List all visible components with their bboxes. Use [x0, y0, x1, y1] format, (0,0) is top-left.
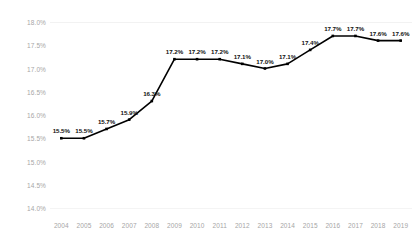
plot-area: 15.5%15.5%15.7%15.9%16.3%17.2%17.2%17.2%… [50, 22, 412, 208]
data-point-marker [264, 67, 267, 70]
data-point-marker [332, 35, 335, 38]
x-tick-label: 2011 [212, 222, 226, 229]
x-tick-label: 2009 [167, 222, 182, 229]
data-point-marker [286, 63, 289, 66]
x-tick-label: 2016 [325, 222, 340, 229]
data-point-marker [309, 49, 312, 52]
x-tick-label: 2015 [303, 222, 318, 229]
data-point-marker [196, 58, 199, 61]
x-tick-label: 2007 [122, 222, 137, 229]
data-point-label: 17.2% [188, 48, 205, 55]
data-point-marker [173, 58, 176, 61]
x-tick-label: 2006 [99, 222, 114, 229]
data-point-label: 17.4% [302, 39, 319, 46]
x-tick-label: 2012 [235, 222, 250, 229]
y-tick-label: 15.0% [4, 158, 46, 165]
series-line [50, 22, 412, 208]
data-point-label: 15.5% [53, 127, 70, 134]
data-point-marker [83, 137, 86, 140]
data-point-label: 17.7% [347, 25, 364, 32]
x-tick-label: 2018 [371, 222, 386, 229]
data-point-label: 17.0% [256, 58, 273, 65]
x-tick-label: 2017 [348, 222, 363, 229]
x-tick-label: 2019 [393, 222, 408, 229]
x-tick-label: 2014 [280, 222, 295, 229]
y-tick-label: 17.5% [4, 42, 46, 49]
data-point-label: 15.7% [98, 118, 115, 125]
data-point-marker [128, 118, 131, 121]
data-point-label: 17.7% [324, 25, 341, 32]
y-tick-label: 16.5% [4, 88, 46, 95]
line-chart: 18.0%17.5%17.0%16.5%16.0%15.5%15.0%14.5%… [0, 0, 419, 243]
y-tick-label: 17.0% [4, 65, 46, 72]
data-point-marker [105, 128, 108, 131]
data-point-label: 16.3% [143, 90, 160, 97]
data-point-marker [241, 63, 244, 66]
data-point-marker [377, 39, 380, 42]
y-tick-label: 18.0% [4, 19, 46, 26]
data-point-label: 17.1% [234, 53, 251, 60]
x-tick-label: 2008 [144, 222, 159, 229]
data-point-marker [151, 100, 154, 103]
data-point-label: 17.2% [166, 48, 183, 55]
x-tick-label: 2010 [190, 222, 205, 229]
y-tick-label: 15.5% [4, 135, 46, 142]
data-point-label: 17.1% [279, 53, 296, 60]
data-point-marker [60, 137, 63, 140]
data-point-marker [218, 58, 221, 61]
x-tick-label: 2004 [54, 222, 69, 229]
y-tick-label: 14.0% [4, 205, 46, 212]
y-tick-label: 16.0% [4, 112, 46, 119]
plot-bottom-border [50, 208, 412, 209]
data-point-label: 15.9% [121, 109, 138, 116]
data-point-label: 15.5% [75, 127, 92, 134]
x-tick-label: 2013 [258, 222, 273, 229]
y-tick-label: 14.5% [4, 181, 46, 188]
data-point-label: 17.6% [369, 30, 386, 37]
data-point-marker [354, 35, 357, 38]
data-point-marker [399, 39, 402, 42]
data-point-label: 17.2% [211, 48, 228, 55]
x-tick-label: 2005 [77, 222, 92, 229]
data-point-label: 17.6% [392, 30, 409, 37]
